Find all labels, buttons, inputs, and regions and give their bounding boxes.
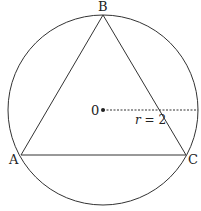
diagram-canvas: B A C 0 r = 2 xyxy=(0,0,201,211)
center-point xyxy=(101,108,105,112)
vertex-label-a: A xyxy=(8,152,19,167)
vertex-label-b: B xyxy=(98,0,108,14)
radius-value: = 2 xyxy=(141,113,166,127)
radius-label: r = 2 xyxy=(135,113,166,127)
vertex-label-c: C xyxy=(188,152,198,167)
center-label: 0 xyxy=(91,103,99,118)
triangle-abc xyxy=(21,15,186,155)
